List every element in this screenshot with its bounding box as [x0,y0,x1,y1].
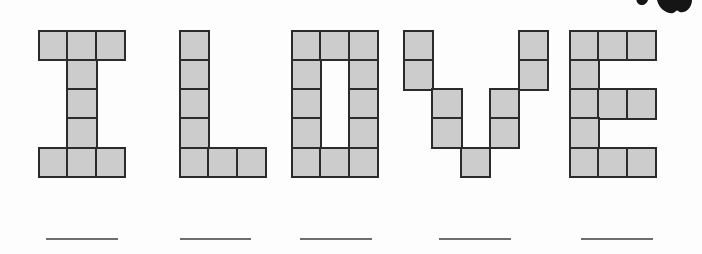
letter-O-square [319,147,350,179]
letter-O-square [291,147,322,179]
letter-I-square [66,30,97,62]
letter-E-square [626,147,657,179]
letter-I-square [66,147,97,179]
letter-O-square [291,88,322,120]
letter-L-square [179,88,210,120]
letter-V-square [518,30,549,62]
letter-V-square [403,59,434,91]
answer-blank-O[interactable] [300,238,372,240]
letter-L-square [179,59,210,91]
corner-small-blob [637,0,649,5]
answer-blank-L[interactable] [180,238,251,240]
letter-I-square [95,30,126,62]
letter-V-square [489,117,520,149]
letter-V-square [460,147,491,179]
letter-V-square [518,59,549,91]
answer-blank-V[interactable] [439,238,511,240]
letter-O-square [348,117,379,149]
letter-V-square [489,88,520,120]
letter-L-square [179,147,210,179]
letter-O-square [348,147,379,179]
answer-blank-E[interactable] [581,238,653,240]
letter-O-square [291,117,322,149]
letter-O-square [291,59,322,91]
letter-E-square [569,147,600,179]
letter-O-square [348,30,379,62]
worksheet-canvas [0,0,702,254]
letter-L-square [179,30,210,62]
letter-L-square [236,147,267,179]
letter-L-square [179,117,210,149]
letter-I-square [38,147,69,179]
letter-I-square [66,88,97,120]
letter-E-square [626,88,657,120]
letter-E-square [597,30,628,62]
letter-E-square [597,147,628,179]
letter-V-square [431,117,462,149]
letter-E-square [569,88,600,120]
letter-L-square [207,147,238,179]
letter-E-square [626,30,657,62]
letter-E-square [597,88,628,120]
letter-V-square [431,88,462,120]
letter-I-square [38,30,69,62]
answer-blank-I[interactable] [46,238,118,240]
letter-O-square [348,59,379,91]
letter-O-square [291,30,322,62]
letter-I-square [95,147,126,179]
letter-E-square [569,59,600,91]
corner-large-blob [657,0,692,13]
letter-I-square [66,59,97,91]
letter-E-square [569,117,600,149]
letter-I-square [66,117,97,149]
letter-E-square [569,30,600,62]
letter-V-square [403,30,434,62]
letter-O-square [348,88,379,120]
letter-O-square [319,30,350,62]
